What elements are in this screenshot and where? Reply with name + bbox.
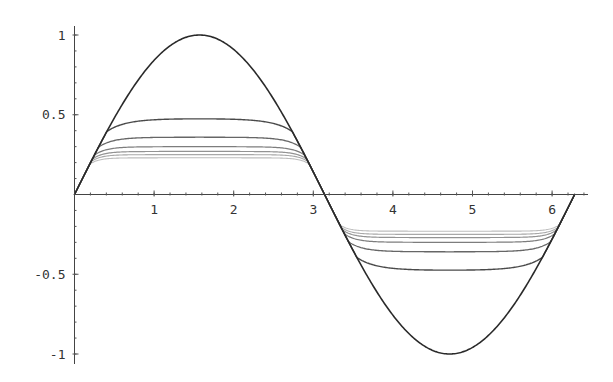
y-tick-label: -0.5 (34, 267, 65, 282)
x-tick-label: 4 (389, 202, 397, 217)
x-tick-label: 6 (548, 202, 556, 217)
y-tick-label: 0.5 (42, 107, 65, 122)
line-chart: 123456 10.5-0.5-1 (0, 0, 613, 382)
x-tick-label: 5 (469, 202, 477, 217)
y-ticks: 10.5-0.5-1 (34, 28, 78, 362)
axes-group: 123456 10.5-0.5-1 (34, 26, 588, 364)
x-tick-label: 2 (230, 202, 238, 217)
x-tick-label: 1 (150, 202, 158, 217)
x-tick-label: 3 (309, 202, 317, 217)
y-tick-label: -1 (50, 347, 66, 362)
y-tick-label: 1 (58, 28, 66, 43)
